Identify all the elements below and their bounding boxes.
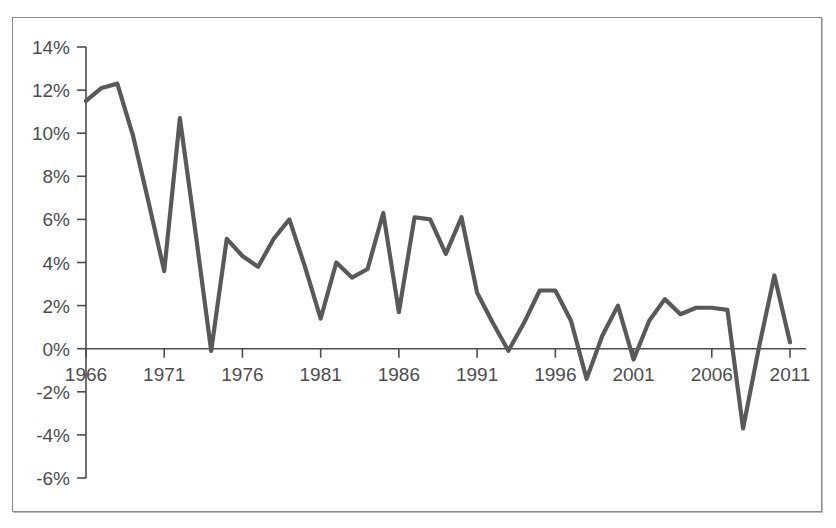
y-axis-ticks: [77, 47, 86, 478]
x-tick-label: 2001: [612, 364, 654, 385]
y-tick-label: 10%: [32, 123, 70, 144]
x-tick-label: 1976: [221, 364, 263, 385]
y-axis-tick-labels: 14%12%10%8%6%4%2%0%-2%-4%-6%: [32, 37, 70, 489]
line-chart: 14%12%10%8%6%4%2%0%-2%-4%-6% 19661971197…: [0, 0, 836, 528]
x-tick-label: 1981: [300, 364, 342, 385]
y-tick-label: 2%: [43, 296, 71, 317]
x-tick-label: 1986: [378, 364, 420, 385]
x-tick-label: 1991: [456, 364, 498, 385]
x-axis-ticks: [86, 349, 790, 358]
y-tick-label: 12%: [32, 80, 70, 101]
y-tick-label: 6%: [43, 209, 71, 230]
y-tick-label: -6%: [36, 468, 70, 489]
x-axis-tick-labels: 1966197119761981198619911996200120062011: [65, 364, 811, 385]
x-tick-label: 1996: [534, 364, 576, 385]
y-tick-label: 8%: [43, 166, 71, 187]
y-tick-label: -4%: [36, 425, 70, 446]
y-tick-label: 0%: [43, 339, 71, 360]
y-tick-label: 4%: [43, 253, 71, 274]
x-tick-label: 2006: [691, 364, 733, 385]
y-tick-label: -2%: [36, 382, 70, 403]
y-tick-label: 14%: [32, 37, 70, 58]
x-tick-label: 1971: [143, 364, 185, 385]
data-series-line: [86, 84, 790, 429]
x-tick-label: 2011: [770, 364, 811, 385]
